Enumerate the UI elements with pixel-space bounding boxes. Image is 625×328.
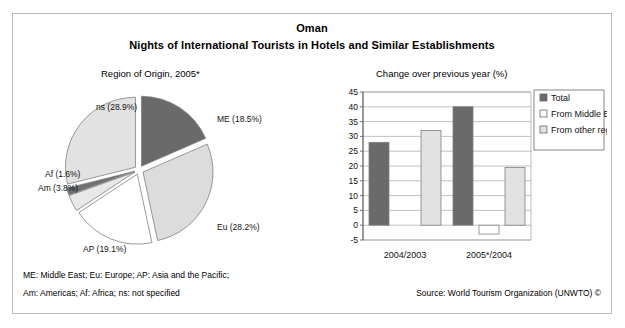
x-axis-category-label: 2004/2003 bbox=[384, 250, 427, 260]
page-subtitle: Nights of International Tourists in Hote… bbox=[13, 39, 611, 51]
chart-frame: Oman Nights of International Tourists in… bbox=[12, 13, 612, 314]
bar-20052004-total bbox=[453, 107, 473, 225]
y-axis-tick: -5 bbox=[350, 235, 358, 245]
pie-label-ap: AP (19.1%) bbox=[83, 244, 126, 254]
pie-chart-panel: ns (28.9%) ME (18.5%) Eu (28.2%) AP (19.… bbox=[21, 82, 321, 262]
y-axis-tick: 45 bbox=[349, 87, 359, 97]
y-axis-tick: 5 bbox=[353, 205, 358, 215]
y-axis-tick: 30 bbox=[349, 131, 359, 141]
y-axis-tick: 35 bbox=[349, 117, 359, 127]
legend-label-total: Total bbox=[551, 93, 570, 103]
y-axis-tick: 0 bbox=[353, 220, 358, 230]
y-axis-tick: 25 bbox=[349, 146, 359, 156]
pie-label-eu: Eu (28.2%) bbox=[217, 222, 260, 232]
legend-label-from-other-regions: From other regions bbox=[551, 125, 607, 135]
page-title: Oman bbox=[13, 22, 611, 34]
source-attribution: Source: World Tourism Organization (UNWT… bbox=[416, 288, 601, 298]
pie-label-ns: ns (28.9%) bbox=[96, 102, 137, 112]
footer-note-abbreviations-1: ME: Middle East; Eu: Europe; AP: Asia an… bbox=[23, 270, 229, 280]
bar-20042003-from-other-regions bbox=[421, 130, 441, 225]
pie-label-am: Am (3.8%) bbox=[38, 183, 78, 193]
bar-20052004-from-other-regions bbox=[505, 167, 525, 225]
pie-chart-heading: Region of Origin, 2005* bbox=[101, 68, 200, 79]
bar-20052004-from-middle-east bbox=[479, 225, 499, 234]
y-axis-tick: 15 bbox=[349, 176, 359, 186]
pie-label-af: Af (1.6%) bbox=[45, 169, 80, 179]
legend-swatch-from-other-regions bbox=[540, 126, 547, 133]
legend-swatch-total bbox=[540, 94, 547, 101]
legend-label-from-middle-east: From Middle East bbox=[551, 109, 607, 119]
bar-20042003-total bbox=[369, 142, 389, 225]
y-axis-tick: 40 bbox=[349, 102, 359, 112]
bar-chart-svg: 454035302520151050-52004/20032005*/2004T… bbox=[335, 82, 607, 268]
bar-chart-heading: Change over previous year (%) bbox=[376, 68, 507, 79]
x-axis-category-label: 2005*/2004 bbox=[466, 250, 512, 260]
y-axis-tick: 10 bbox=[349, 191, 359, 201]
legend-swatch-from-middle-east bbox=[540, 110, 547, 117]
pie-label-me: ME (18.5%) bbox=[217, 114, 262, 124]
y-axis-tick: 20 bbox=[349, 161, 359, 171]
footer-note-abbreviations-2: Am: Americas; Af: Africa; ns: not specif… bbox=[23, 288, 180, 298]
bar-chart-panel: 454035302520151050-52004/20032005*/2004T… bbox=[335, 82, 607, 268]
